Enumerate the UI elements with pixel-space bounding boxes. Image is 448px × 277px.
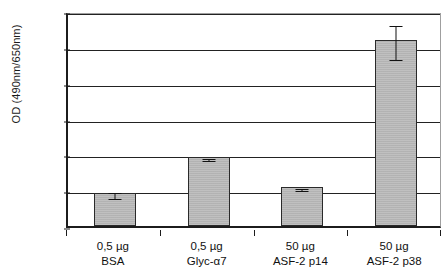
x-axis-category-label: 0,5 µgGlyc-α7 bbox=[160, 239, 254, 269]
x-axis-tick-mark bbox=[66, 230, 67, 236]
bar bbox=[188, 157, 230, 226]
x-axis-label-line: 0,5 µg bbox=[66, 239, 160, 254]
bar bbox=[375, 40, 417, 226]
error-bar-cap-lower bbox=[202, 161, 215, 162]
x-axis-category-label: 50 µgASF-2 p38 bbox=[347, 239, 441, 269]
x-axis-tick-mark bbox=[160, 230, 161, 236]
bar-slot bbox=[349, 14, 443, 226]
error-bar-line bbox=[396, 26, 397, 60]
bar-slot bbox=[162, 14, 256, 226]
error-bar-cap-upper bbox=[108, 193, 121, 194]
bar-slot bbox=[256, 14, 350, 226]
error-bar-cap-upper bbox=[296, 189, 309, 190]
y-axis-title: OD (490nm/650nm) bbox=[10, 0, 26, 154]
x-axis-label-line: 50 µg bbox=[347, 239, 441, 254]
x-axis-label-line: 0,5 µg bbox=[160, 239, 254, 254]
x-axis-tick-mark bbox=[347, 230, 348, 236]
bar-chart-figure: OD (490nm/650nm) 00,020,040,060,080,10,1… bbox=[0, 0, 448, 277]
x-axis-category-label: 50 µgASF-2 p14 bbox=[254, 239, 348, 269]
bar bbox=[281, 187, 323, 226]
plot-area: 00,020,040,060,080,10,12 bbox=[66, 13, 441, 228]
x-axis-label-line: ASF-2 p14 bbox=[254, 254, 348, 269]
error-bar-cap-lower bbox=[296, 191, 309, 192]
x-axis-category-label: 0,5 µgBSA bbox=[66, 239, 160, 269]
x-axis-tick-mark bbox=[440, 230, 441, 236]
error-bar-cap-lower bbox=[390, 60, 403, 61]
error-bar-cap-upper bbox=[202, 159, 215, 160]
x-axis-label-line: 50 µg bbox=[254, 239, 348, 254]
x-axis-tick-mark bbox=[254, 230, 255, 236]
error-bar-cap-upper bbox=[390, 26, 403, 27]
x-axis-label-line: ASF-2 p38 bbox=[347, 254, 441, 269]
error-bar-cap-lower bbox=[108, 199, 121, 200]
x-axis-label-line: Glyc-α7 bbox=[160, 254, 254, 269]
x-axis-label-line: BSA bbox=[66, 254, 160, 269]
bar-slot bbox=[68, 14, 162, 226]
x-axis-labels-group: 0,5 µgBSA0,5 µgGlyc-α750 µgASF-2 p1450 µ… bbox=[66, 230, 441, 277]
